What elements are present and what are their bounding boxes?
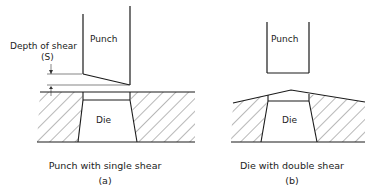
die-b — [231, 90, 365, 142]
punch-b — [267, 22, 309, 73]
caption-b: Die with double shear — [232, 160, 352, 171]
die-a — [37, 92, 195, 142]
die-label-a: Die — [96, 115, 111, 125]
depth-dimension — [47, 64, 129, 96]
punch-a — [83, 6, 130, 85]
depth-of-shear-label: Depth of shear — [10, 41, 77, 51]
figure-a — [37, 6, 195, 142]
sublabel-a: (a) — [40, 175, 170, 186]
die-label-b: Die — [282, 115, 297, 125]
sublabel-b: (b) — [232, 175, 352, 186]
depth-symbol-label: (S) — [41, 52, 54, 62]
punch-label-a: Punch — [90, 34, 117, 44]
punch-label-b: Punch — [271, 34, 298, 44]
caption-a: Punch with single shear — [40, 160, 170, 171]
